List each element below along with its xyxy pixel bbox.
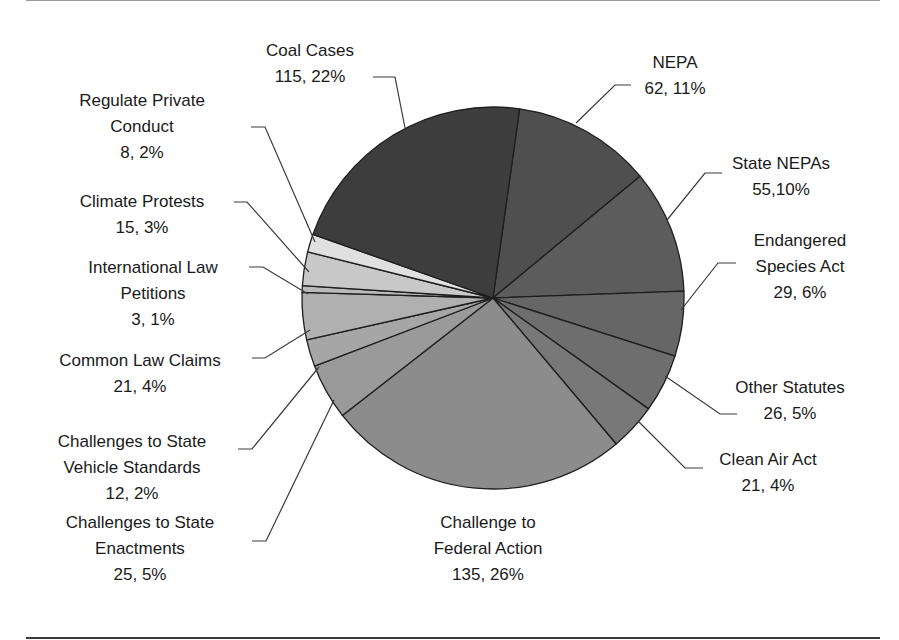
label-coal-cases: Coal Cases 115, 22% <box>255 38 365 90</box>
label-challenges-to-state-enactments: Challenges to State Enactments 25, 5% <box>50 510 230 588</box>
label-regulate-private-conduct: Regulate Private Conduct 8, 2% <box>62 88 222 166</box>
label-common-law-claims: Common Law Claims 21, 4% <box>40 348 240 400</box>
label-state-nepas: State NEPAs 55,10% <box>726 151 836 203</box>
leader-clean-air <box>638 421 703 468</box>
leader-nepa <box>576 85 631 123</box>
leader-climate-protests <box>234 202 309 272</box>
pie-slices <box>302 107 684 489</box>
label-international-law-petitions: International Law Petitions 3, 1% <box>68 255 238 333</box>
leader-regulate-private <box>251 127 315 242</box>
leader-international <box>249 267 308 294</box>
label-climate-protests: Climate Protests 15, 3% <box>62 189 222 241</box>
leader-esa <box>681 263 736 310</box>
leader-state-nepas <box>667 173 722 220</box>
leader-coal <box>373 77 405 128</box>
leader-vehicle <box>238 367 319 449</box>
label-challenge-to-federal-action: Challenge to Federal Action 135, 26% <box>418 510 558 588</box>
leader-common-law <box>252 330 310 358</box>
label-clean-air-act: Clean Air Act 21, 4% <box>708 447 828 499</box>
label-challenges-to-state-vehicle-standards: Challenges to State Vehicle Standards 12… <box>42 429 222 507</box>
label-nepa: NEPA 62, 11% <box>635 50 715 102</box>
leader-state-enactments <box>252 400 334 541</box>
label-other-statutes: Other Statutes 26, 5% <box>725 375 855 427</box>
label-endangered-species-act: Endangered Species Act 29, 6% <box>740 228 860 306</box>
